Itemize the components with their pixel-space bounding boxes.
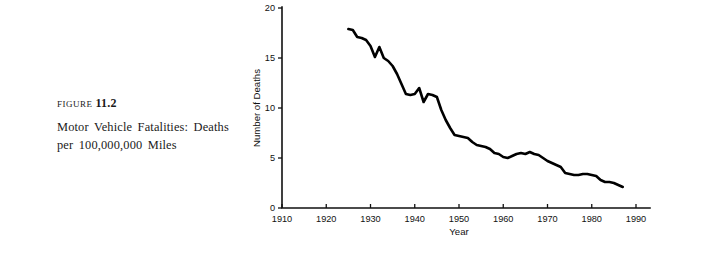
y-tick-label: 10: [265, 103, 275, 113]
y-axis-title: Number of Deaths: [251, 69, 262, 147]
x-tick-label: 1980: [582, 214, 602, 224]
x-tick-label: 1960: [493, 214, 513, 224]
figure-label-line: Figure11.2: [57, 96, 242, 111]
x-tick-label: 1940: [405, 214, 425, 224]
figure-label-word: Figure: [57, 96, 93, 110]
figure-number: 11.2: [96, 96, 117, 110]
x-tick-label: 1930: [360, 214, 380, 224]
figure-caption-text: Motor Vehicle Fatalities: Deaths per 100…: [57, 118, 242, 154]
x-tick-label: 1950: [449, 214, 469, 224]
y-tick-label: 15: [265, 53, 275, 63]
y-tick-label: 20: [265, 3, 275, 13]
y-tick-label: 0: [270, 203, 275, 213]
x-tick-label: 1990: [626, 214, 646, 224]
x-tick-label: 1970: [537, 214, 557, 224]
line-chart: 05101520 1910192019301940195019601970198…: [246, 0, 719, 257]
chart-axes: [282, 7, 650, 208]
x-axis-ticks: 191019201930194019501960197019801990: [272, 204, 646, 224]
data-series-line: [348, 29, 622, 187]
x-tick-label: 1910: [272, 214, 292, 224]
figure-caption-block: Figure11.2 Motor Vehicle Fatalities: Dea…: [57, 96, 242, 154]
chart-container: 05101520 1910192019301940195019601970198…: [246, 0, 719, 257]
y-tick-label: 5: [270, 153, 275, 163]
x-axis-title: Year: [449, 226, 469, 237]
figure-page: Figure11.2 Motor Vehicle Fatalities: Dea…: [0, 0, 719, 257]
x-tick-label: 1920: [316, 214, 336, 224]
y-axis-ticks: 05101520: [265, 3, 282, 213]
